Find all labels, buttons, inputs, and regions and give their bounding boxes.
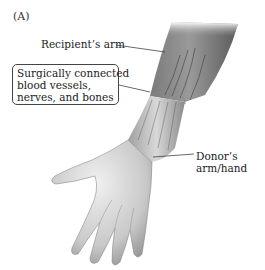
donor-arm-label: Donor’s arm/hand (196, 150, 247, 174)
donor-hand (52, 140, 152, 265)
surgical-connection-callout: Surgically connected blood vessels, nerv… (12, 64, 119, 105)
callout-line: Surgically connected (17, 67, 114, 79)
donor-label-line: arm/hand (196, 162, 247, 174)
panel-label: (A) (13, 10, 30, 23)
arm-illustration (0, 0, 265, 270)
callout-leader-line (119, 85, 150, 92)
callout-line: nerves, and bones (17, 91, 114, 103)
callout-line: blood vessels, (17, 79, 114, 91)
donor-label-line: Donor’s (196, 150, 247, 162)
recipient-arm-label: Recipient’s arm (41, 38, 125, 50)
